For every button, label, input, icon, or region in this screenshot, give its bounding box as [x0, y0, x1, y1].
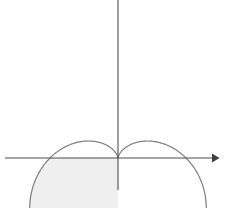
cardioid-figure — [0, 0, 229, 208]
figure-canvas — [0, 0, 229, 208]
